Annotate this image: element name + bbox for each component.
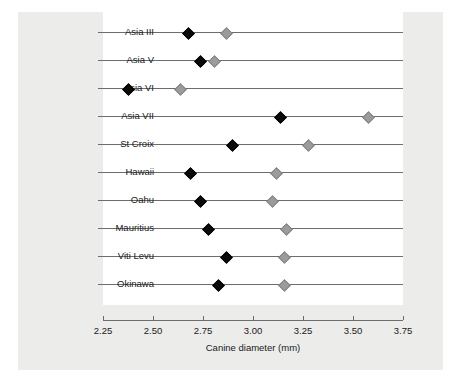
x-axis-tick	[203, 316, 204, 320]
y-axis-tick-label: Hawaii	[4, 164, 154, 180]
x-axis-tick-label: 3.75	[383, 325, 423, 336]
y-axis-tick-label: Mauritius	[4, 220, 154, 236]
x-axis-tick	[253, 316, 254, 320]
x-axis-tick-label: 2.75	[183, 325, 223, 336]
y-axis-tick-label: Asia VII	[4, 108, 154, 124]
x-axis-tick	[303, 316, 304, 320]
x-axis-tick-label: 3.00	[233, 325, 273, 336]
x-axis	[103, 320, 403, 321]
y-axis-tick-label: Asia III	[4, 24, 154, 40]
y-axis-tick-label: Viti Levu	[4, 248, 154, 264]
y-axis-tick-label: Oahu	[4, 192, 154, 208]
x-axis-tick-label: 3.25	[283, 325, 323, 336]
y-axis-tick-label: St Croix	[4, 136, 154, 152]
y-axis-tick-label: Okinawa	[4, 276, 154, 292]
x-axis-title: Canine diameter (mm)	[103, 342, 403, 353]
x-axis-tick	[403, 316, 404, 320]
y-axis-tick-label: Asia V	[4, 52, 154, 68]
x-axis-tick	[103, 316, 104, 320]
x-axis-tick	[353, 316, 354, 320]
x-axis-tick	[153, 316, 154, 320]
chart-figure: Asia IIIAsia VAsia VIAsia VIISt CroixHaw…	[0, 0, 460, 382]
x-axis-tick-label: 2.50	[133, 325, 173, 336]
x-axis-tick-label: 2.25	[83, 325, 123, 336]
x-axis-tick-label: 3.50	[333, 325, 373, 336]
